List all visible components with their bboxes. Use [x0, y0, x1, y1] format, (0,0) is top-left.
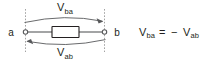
equation-rhs-subscript: ab — [191, 31, 199, 40]
terminal-node-a — [23, 30, 27, 34]
arc-label-vba: V ba — [57, 1, 74, 16]
node-label-a: a — [8, 27, 14, 38]
resistor-element — [52, 27, 79, 38]
circuit-diagram-canvas: a b V ba V ab V ba = − V ab — [0, 0, 211, 60]
equation-lhs-subscript: ba — [147, 31, 156, 40]
circuit-figure: a b V ba V ab V ba = − V ab — [0, 0, 211, 60]
node-label-b: b — [114, 27, 120, 38]
equation-minus-sign: − — [171, 26, 177, 38]
arrowhead-bottom-left — [26, 39, 33, 44]
terminal-node-b — [102, 30, 106, 34]
arc-label-vab-subscript: ab — [65, 52, 73, 61]
equation-equals-sign: = — [159, 26, 165, 38]
arc-label-vba-subscript: ba — [65, 7, 74, 16]
arc-bottom-vab — [27, 40, 105, 45]
equation-vba-equals-negative-vab: V ba = − V ab — [139, 26, 199, 41]
arc-top-vba — [25, 18, 103, 23]
arc-label-vab: V ab — [57, 46, 73, 60]
